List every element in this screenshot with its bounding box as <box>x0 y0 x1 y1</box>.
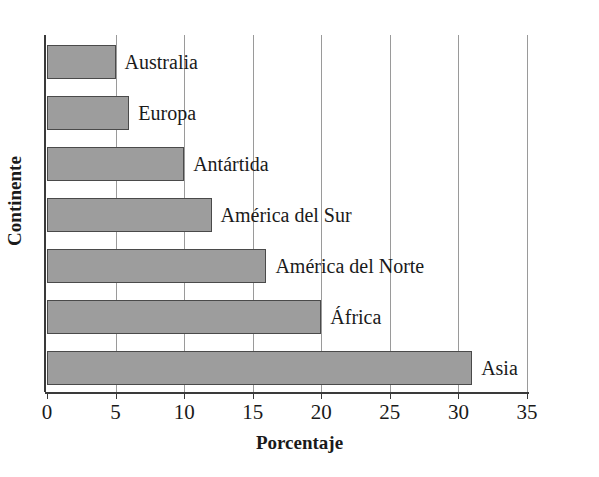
chart-title-fragment <box>0 0 599 14</box>
bar[interactable] <box>47 147 184 181</box>
bar-label: América del Sur <box>221 205 352 225</box>
bar[interactable] <box>47 198 212 232</box>
x-tick-mark <box>321 392 322 399</box>
x-tick-mark <box>47 392 48 399</box>
x-tick-label: 25 <box>379 400 400 424</box>
bar-row[interactable]: América del Sur <box>47 198 527 232</box>
bar-label: Australia <box>125 52 198 72</box>
bar-row[interactable]: Australia <box>47 45 527 79</box>
x-tick-label: 35 <box>517 400 538 424</box>
gridline <box>527 35 528 392</box>
bar-row[interactable]: Antártida <box>47 147 527 181</box>
y-axis-line <box>44 35 46 392</box>
bar-row[interactable]: África <box>47 300 527 334</box>
plot-area: AustraliaEuropaAntártidaAmérica del SurA… <box>47 35 527 392</box>
bar-chart: AustraliaEuropaAntártidaAmérica del SurA… <box>0 0 599 477</box>
bar[interactable] <box>47 351 472 385</box>
x-tick-mark <box>458 392 459 399</box>
y-axis-label: Continente <box>4 101 26 301</box>
bar-row[interactable]: América del Norte <box>47 249 527 283</box>
x-tick-mark <box>253 392 254 399</box>
x-tick-label: 20 <box>311 400 332 424</box>
bar[interactable] <box>47 96 129 130</box>
x-tick-mark <box>390 392 391 399</box>
x-tick-label: 15 <box>242 400 263 424</box>
bar-label: África <box>330 307 381 327</box>
bar-label: Antártida <box>193 154 269 174</box>
x-tick-mark <box>527 392 528 399</box>
bar[interactable] <box>47 300 321 334</box>
bar-label: Asia <box>481 358 518 378</box>
bar-label: América del Norte <box>275 256 424 276</box>
x-axis-line <box>45 392 529 394</box>
x-tick-mark <box>116 392 117 399</box>
x-tick-label: 5 <box>110 400 121 424</box>
bar-label: Europa <box>138 103 196 123</box>
x-tick-label: 10 <box>174 400 195 424</box>
bar[interactable] <box>47 45 116 79</box>
x-tick-label: 30 <box>448 400 469 424</box>
bar-row[interactable]: Europa <box>47 96 527 130</box>
x-tick-mark <box>184 392 185 399</box>
x-axis-label: Porcentaje <box>0 432 599 454</box>
bar[interactable] <box>47 249 266 283</box>
x-tick-label: 0 <box>42 400 53 424</box>
bar-row[interactable]: Asia <box>47 351 527 385</box>
